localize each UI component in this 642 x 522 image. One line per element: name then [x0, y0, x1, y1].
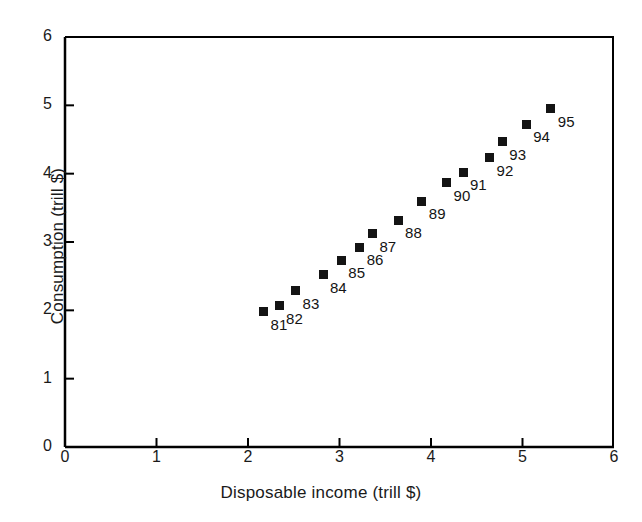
data-point	[498, 137, 507, 146]
data-point-label: 87	[379, 238, 396, 255]
data-point-label: 94	[533, 128, 550, 145]
x-tick-label: 6	[601, 448, 627, 466]
x-tick-label: 2	[235, 448, 261, 466]
data-point	[368, 229, 377, 238]
data-point-label: 91	[470, 176, 487, 193]
data-point-label: 85	[348, 264, 365, 281]
data-point-label: 84	[330, 279, 347, 296]
data-point	[355, 243, 364, 252]
x-axis-title: Disposable income (trill $)	[0, 483, 642, 503]
data-point	[291, 286, 300, 295]
data-point	[394, 216, 403, 225]
x-tick-label: 1	[144, 448, 170, 466]
data-point-label: 88	[405, 224, 422, 241]
data-point	[546, 104, 555, 113]
y-axis-title-container: Consumption (trill $)	[48, 96, 72, 396]
data-point-label: 81	[271, 316, 288, 333]
data-point	[485, 153, 494, 162]
data-point	[337, 256, 346, 265]
data-point	[459, 168, 468, 177]
scatter-chart-figure: 818283848586878889909192939495 0123456 0…	[0, 0, 642, 522]
axis-lines	[65, 37, 614, 447]
y-tick-label: 0	[28, 437, 52, 455]
data-point	[319, 270, 328, 279]
data-point-label: 90	[454, 187, 471, 204]
data-point-label: 95	[558, 113, 575, 130]
data-point	[417, 197, 426, 206]
data-point	[275, 301, 284, 310]
data-point-label: 82	[286, 310, 303, 327]
x-tick-label: 5	[510, 448, 536, 466]
data-point-label: 89	[429, 205, 446, 222]
y-axis-title: Consumption (trill $)	[48, 96, 68, 396]
chart-axes	[0, 0, 642, 522]
x-axis-ticks	[157, 438, 523, 447]
data-point-label: 83	[303, 295, 320, 312]
x-tick-label: 0	[52, 448, 78, 466]
data-point-label: 92	[497, 162, 514, 179]
data-point	[259, 307, 268, 316]
x-tick-label: 4	[418, 448, 444, 466]
data-point-label: 93	[509, 146, 526, 163]
y-tick-label: 6	[28, 27, 52, 45]
data-point	[522, 120, 531, 129]
data-point	[442, 178, 451, 187]
x-tick-label: 3	[327, 448, 353, 466]
